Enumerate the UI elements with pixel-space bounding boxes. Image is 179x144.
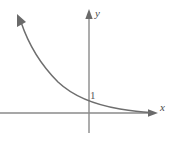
x-axis-label: x	[160, 102, 165, 113]
y-axis-arrowhead	[85, 9, 92, 19]
y-intercept-label: 1	[90, 90, 96, 101]
graph-canvas	[0, 0, 179, 144]
exponential-curve	[21, 22, 150, 113]
exponential-decay-graph: y x 1	[0, 0, 179, 144]
y-axis-label: y	[95, 8, 100, 19]
